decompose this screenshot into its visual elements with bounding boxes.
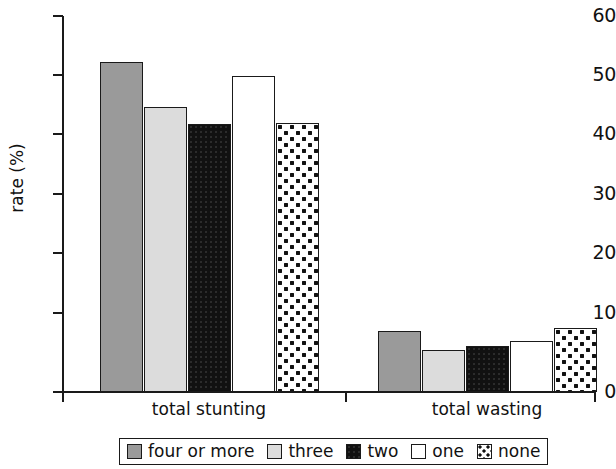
legend-swatch-icon-three [267,444,282,459]
legend-label-none: none [498,443,540,460]
bar-total-stunting-three [144,107,187,392]
bar-total-stunting-two [188,124,231,392]
legend-item-two: two [346,443,398,460]
bar-total-wasting-two [466,346,509,392]
x-tick-right [594,393,596,402]
bar-total-stunting-none [276,123,319,392]
bar-total-wasting-one [510,341,553,392]
x-tick-middle [345,393,347,402]
legend-label-two: two [367,443,398,460]
legend-item-four-or-more: four or more [127,443,254,460]
legend-label-one: one [432,443,464,460]
bar-chart: rate (%) 60 50 40 30 20 10 0 total stunt… [0,0,616,469]
legend: four or more three two one none [119,438,548,465]
bars-layer [62,16,596,392]
x-tick-left [62,393,64,402]
x-axis-label-total-stunting: total stunting [104,399,314,419]
legend-swatch-icon-two [346,444,361,459]
x-axis-label-total-wasting: total wasting [382,399,592,419]
bar-total-wasting-none [554,328,597,392]
bar-total-wasting-four-or-more [378,331,421,392]
bar-total-stunting-one [232,76,275,392]
y-axis-label: rate (%) [7,123,27,233]
legend-swatch-icon-one [411,444,426,459]
legend-label-three: three [288,443,333,460]
legend-item-one: one [411,443,464,460]
legend-swatch-icon-four-or-more [127,444,142,459]
legend-label-four-or-more: four or more [148,443,254,460]
legend-item-none: none [477,443,540,460]
bar-total-wasting-three [422,350,465,392]
legend-swatch-icon-none [477,444,492,459]
legend-item-three: three [267,443,333,460]
bar-total-stunting-four-or-more [100,62,143,392]
